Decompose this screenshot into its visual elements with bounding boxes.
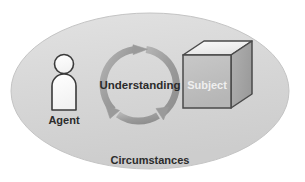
understanding-label: Understanding [99, 79, 180, 91]
circumstances-label: Circumstances [111, 154, 190, 166]
subject-node[interactable]: Subject [183, 41, 252, 108]
agent-label: Agent [48, 114, 80, 126]
diagram-canvas: Agent Understanding [0, 0, 305, 182]
concept-diagram: Agent Understanding [0, 0, 305, 182]
person-icon-body [52, 74, 76, 110]
subject-label: Subject [187, 79, 227, 91]
person-icon-head [55, 55, 74, 74]
